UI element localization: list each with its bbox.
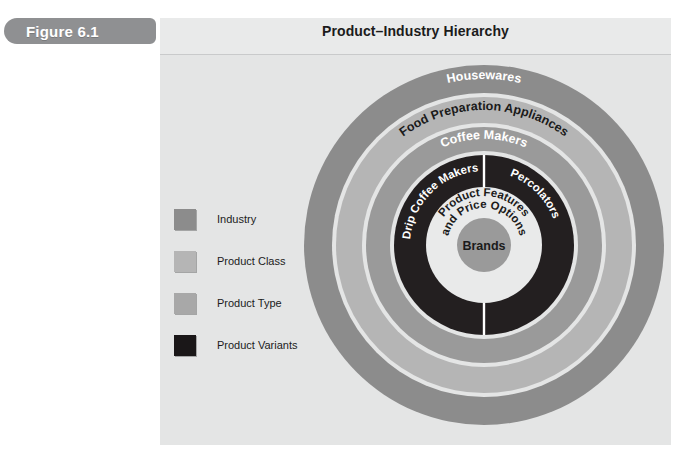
legend-label-product-variants: Product Variants <box>217 339 298 351</box>
legend-swatch-product-type <box>174 293 196 314</box>
hierarchy-diagram: Housewares Food Preparation Appliances C… <box>300 61 668 429</box>
center-label-brands: Brands <box>462 239 505 253</box>
figure-title: Product–Industry Hierarchy <box>160 23 671 39</box>
figure-tab-label: Figure 6.1 <box>26 23 99 40</box>
legend-swatch-industry <box>174 209 196 230</box>
legend-item-industry: Industry <box>174 207 298 231</box>
legend-item-product-class: Product Class <box>174 249 298 273</box>
figure-panel: Product–Industry Hierarchy Industry Prod… <box>160 18 671 445</box>
legend-label-industry: Industry <box>217 213 256 225</box>
legend-item-product-variants: Product Variants <box>174 333 298 357</box>
figure-tab: Figure 6.1 <box>4 18 156 44</box>
legend-label-product-class: Product Class <box>217 255 285 267</box>
legend: Industry Product Class Product Type Prod… <box>174 207 298 375</box>
figure-body: Industry Product Class Product Type Prod… <box>160 55 671 445</box>
legend-swatch-product-class <box>174 251 196 272</box>
legend-item-product-type: Product Type <box>174 291 298 315</box>
figure-root: Figure 6.1 Product–Industry Hierarchy In… <box>0 0 682 452</box>
legend-label-product-type: Product Type <box>217 297 282 309</box>
legend-swatch-product-variants <box>174 335 196 356</box>
